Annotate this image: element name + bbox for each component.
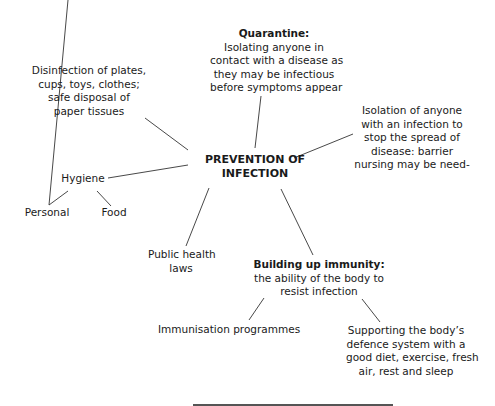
immunity-line-2: resist infection — [252, 285, 386, 299]
public-health-line-1: Public health — [148, 248, 214, 262]
link-supporting — [362, 299, 380, 322]
disinfection-node: Disinfection of plates, cups, toys, clot… — [30, 64, 148, 118]
hygiene-personal-node: Personal — [22, 206, 72, 220]
immunity-node: Building up immunity: the ability of the… — [252, 258, 386, 299]
center-node: PREVENTION OF INFECTION — [188, 153, 322, 181]
link-public-health — [186, 188, 209, 246]
quarantine-line-2: contact with a disease as — [210, 54, 338, 68]
hygiene-food-node: Food — [97, 206, 131, 220]
immunisation-line-1: Immunisation programmes — [158, 323, 292, 337]
public-health-node: Public health laws — [148, 248, 214, 275]
quarantine-line-4: before symptoms appear — [210, 81, 338, 95]
link-hygiene — [108, 165, 188, 178]
isolation-line-2: with an infection to — [352, 118, 472, 132]
center-line-2: INFECTION — [188, 167, 322, 181]
supporting-defence-node: Supporting the body’s defence system wit… — [346, 324, 466, 378]
immunity-line-1: the ability of the body to — [252, 272, 386, 286]
immunisation-node: Immunisation programmes — [158, 323, 292, 337]
supporting-line-4: air, rest and sleep — [346, 365, 466, 379]
isolation-line-4: disease: barrier — [352, 145, 472, 159]
quarantine-node: Quarantine: Isolating anyone in contact … — [210, 27, 338, 95]
public-health-line-2: laws — [148, 262, 214, 276]
link-immunity — [281, 189, 313, 255]
quarantine-line-3: they may be infectious — [210, 68, 338, 82]
disinfection-line-2: cups, toys, clothes; — [30, 78, 148, 92]
link-food — [97, 191, 111, 206]
disinfection-line-4: paper tissues — [30, 105, 148, 119]
isolation-line-1: Isolation of anyone — [352, 104, 472, 118]
supporting-line-1: Supporting the body’s — [346, 324, 466, 338]
hygiene-node: Hygiene — [58, 172, 108, 186]
center-line-1: PREVENTION OF — [188, 153, 322, 167]
immunity-title: Building up immunity: — [252, 258, 386, 272]
supporting-line-3: good diet, exercise, fresh — [346, 351, 466, 365]
supporting-line-2: defence system with a — [346, 338, 466, 352]
isolation-node: Isolation of anyone with an infection to… — [352, 104, 472, 172]
isolation-line-5: nursing may be need- — [352, 158, 472, 172]
link-immunisation — [249, 298, 264, 320]
disinfection-line-3: safe disposal of — [30, 91, 148, 105]
quarantine-line-1: Isolating anyone in — [210, 41, 338, 55]
food-label: Food — [97, 206, 131, 220]
personal-label: Personal — [22, 206, 72, 220]
hygiene-label: Hygiene — [58, 172, 108, 186]
link-quarantine — [255, 96, 261, 148]
isolation-line-3: stop the spread of — [352, 131, 472, 145]
disinfection-line-1: Disinfection of plates, — [30, 64, 148, 78]
quarantine-title: Quarantine: — [210, 27, 338, 41]
link-disinfection — [145, 118, 188, 150]
link-personal-2 — [49, 191, 68, 205]
